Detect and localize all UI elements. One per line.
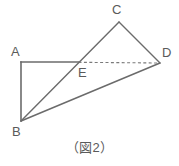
segment-C-D [119,22,160,63]
figure-caption: （図2） [0,140,179,156]
vertex-label-C: C [112,3,121,16]
segment-B-C [21,22,119,121]
geometry-figure: A B C D E （図2） [0,0,179,166]
vertex-label-B: B [12,125,21,138]
vertex-label-E: E [78,66,87,79]
segment-B-D [21,63,160,121]
vertex-label-D: D [162,46,171,59]
segment-E-D [79,62,161,63]
vertex-label-A: A [11,45,20,58]
